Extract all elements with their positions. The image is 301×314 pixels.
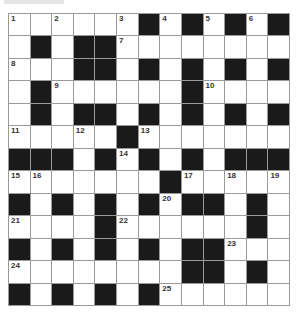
grid-cell[interactable]: [52, 216, 73, 237]
grid-cell[interactable]: 12: [74, 126, 95, 147]
grid-cell[interactable]: [247, 104, 268, 125]
grid-cell[interactable]: [139, 216, 160, 237]
grid-cell[interactable]: 15: [9, 171, 30, 192]
grid-cell[interactable]: [139, 261, 160, 282]
grid-cell[interactable]: [204, 36, 225, 57]
grid-cell[interactable]: [247, 126, 268, 147]
grid-cell[interactable]: [247, 284, 268, 305]
grid-cell[interactable]: [31, 126, 52, 147]
grid-cell[interactable]: [74, 171, 95, 192]
grid-cell[interactable]: [139, 36, 160, 57]
grid-cell[interactable]: [268, 126, 289, 147]
grid-cell[interactable]: 5: [204, 14, 225, 35]
grid-cell[interactable]: [160, 216, 181, 237]
grid-cell[interactable]: [74, 14, 95, 35]
grid-cell[interactable]: [117, 194, 138, 215]
grid-cell[interactable]: [204, 149, 225, 170]
grid-cell[interactable]: [31, 261, 52, 282]
grid-cell[interactable]: 6: [247, 14, 268, 35]
grid-cell[interactable]: [95, 81, 116, 102]
grid-cell[interactable]: [95, 14, 116, 35]
grid-cell[interactable]: 9: [52, 81, 73, 102]
grid-cell[interactable]: [9, 104, 30, 125]
grid-cell[interactable]: [95, 126, 116, 147]
grid-cell[interactable]: 25: [160, 284, 181, 305]
grid-cell[interactable]: [225, 216, 246, 237]
grid-cell[interactable]: 4: [160, 14, 181, 35]
grid-cell[interactable]: [225, 284, 246, 305]
grid-cell[interactable]: [204, 126, 225, 147]
grid-cell[interactable]: [225, 194, 246, 215]
grid-cell[interactable]: [268, 284, 289, 305]
grid-cell[interactable]: [225, 126, 246, 147]
grid-cell[interactable]: [117, 104, 138, 125]
grid-cell[interactable]: [139, 171, 160, 192]
grid-cell[interactable]: [95, 261, 116, 282]
grid-cell[interactable]: [74, 284, 95, 305]
grid-cell[interactable]: [225, 261, 246, 282]
grid-cell[interactable]: [52, 59, 73, 80]
grid-cell[interactable]: [117, 239, 138, 260]
grid-cell[interactable]: [9, 81, 30, 102]
grid-cell[interactable]: 16: [31, 171, 52, 192]
grid-cell[interactable]: [268, 81, 289, 102]
grid-cell[interactable]: 17: [182, 171, 203, 192]
grid-cell[interactable]: [160, 126, 181, 147]
grid-cell[interactable]: [31, 194, 52, 215]
grid-cell[interactable]: [74, 81, 95, 102]
grid-cell[interactable]: [52, 36, 73, 57]
grid-cell[interactable]: [182, 216, 203, 237]
grid-cell[interactable]: [247, 59, 268, 80]
grid-cell[interactable]: [225, 36, 246, 57]
grid-cell[interactable]: [31, 216, 52, 237]
grid-cell[interactable]: [117, 284, 138, 305]
grid-cell[interactable]: 21: [9, 216, 30, 237]
grid-cell[interactable]: [74, 239, 95, 260]
grid-cell[interactable]: [117, 171, 138, 192]
grid-cell[interactable]: [247, 239, 268, 260]
grid-cell[interactable]: [117, 261, 138, 282]
grid-cell[interactable]: [95, 171, 116, 192]
grid-cell[interactable]: [268, 239, 289, 260]
grid-cell[interactable]: [160, 81, 181, 102]
grid-cell[interactable]: [117, 59, 138, 80]
grid-cell[interactable]: 3: [117, 14, 138, 35]
grid-cell[interactable]: 20: [160, 194, 181, 215]
grid-cell[interactable]: [182, 126, 203, 147]
grid-cell[interactable]: 2: [52, 14, 73, 35]
grid-cell[interactable]: [31, 14, 52, 35]
grid-cell[interactable]: [247, 171, 268, 192]
grid-cell[interactable]: 23: [225, 239, 246, 260]
grid-cell[interactable]: 7: [117, 36, 138, 57]
grid-cell[interactable]: 10: [204, 81, 225, 102]
grid-cell[interactable]: [160, 36, 181, 57]
grid-cell[interactable]: [52, 104, 73, 125]
grid-cell[interactable]: [247, 81, 268, 102]
grid-cell[interactable]: [31, 59, 52, 80]
grid-cell[interactable]: [182, 284, 203, 305]
grid-cell[interactable]: [182, 36, 203, 57]
grid-cell[interactable]: 11: [9, 126, 30, 147]
grid-cell[interactable]: [268, 36, 289, 57]
grid-cell[interactable]: [160, 149, 181, 170]
grid-cell[interactable]: [74, 149, 95, 170]
grid-cell[interactable]: [160, 104, 181, 125]
grid-cell[interactable]: [204, 59, 225, 80]
grid-cell[interactable]: 8: [9, 59, 30, 80]
grid-cell[interactable]: [204, 104, 225, 125]
grid-cell[interactable]: 1: [9, 14, 30, 35]
grid-cell[interactable]: 22: [117, 216, 138, 237]
grid-cell[interactable]: [160, 261, 181, 282]
grid-cell[interactable]: [268, 261, 289, 282]
grid-cell[interactable]: [52, 261, 73, 282]
grid-cell[interactable]: [268, 216, 289, 237]
grid-cell[interactable]: [160, 239, 181, 260]
grid-cell[interactable]: [247, 36, 268, 57]
grid-cell[interactable]: 24: [9, 261, 30, 282]
grid-cell[interactable]: 13: [139, 126, 160, 147]
grid-cell[interactable]: [31, 239, 52, 260]
grid-cell[interactable]: 14: [117, 149, 138, 170]
grid-cell[interactable]: [9, 36, 30, 57]
grid-cell[interactable]: [204, 216, 225, 237]
grid-cell[interactable]: [31, 284, 52, 305]
